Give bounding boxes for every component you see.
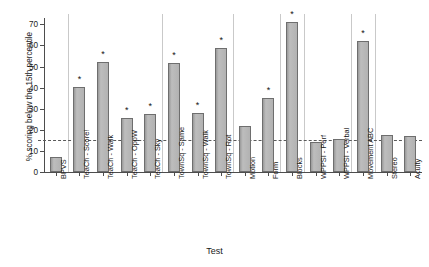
- x-tick-label: TeaCh - Walk: [106, 135, 115, 179]
- x-tick-mark: [221, 172, 222, 176]
- y-tick-mark: [40, 151, 44, 152]
- y-tick-label: 30: [29, 104, 38, 113]
- group-separator: [304, 14, 305, 172]
- significance-marker: *: [172, 51, 176, 60]
- x-tick-mark: [56, 172, 57, 176]
- group-separator: [351, 14, 352, 172]
- x-tick-label: Blocks: [295, 157, 304, 179]
- group-separator: [280, 14, 281, 172]
- x-tick-mark: [292, 172, 293, 176]
- x-tick-label: Stereo: [390, 157, 399, 179]
- x-tick-label: Acuity: [413, 159, 422, 179]
- significance-marker: *: [101, 50, 105, 59]
- significance-marker: *: [125, 106, 129, 115]
- plot-area: 010203040506070 ********** BPVSTeaCh - S…: [44, 18, 422, 172]
- x-tick-label: TownSq - Walk: [201, 130, 210, 179]
- x-tick-label: TeaCh - OppW: [130, 130, 139, 179]
- significance-marker: *: [219, 36, 223, 45]
- y-tick-mark: [40, 172, 44, 173]
- significance-marker: *: [78, 75, 82, 84]
- group-separator: [68, 14, 69, 172]
- x-axis-title: Test: [0, 246, 429, 256]
- y-tick-label: 70: [29, 20, 38, 29]
- x-tick-label: WPPSI - Verbal: [342, 128, 351, 179]
- x-tick-label: BPVS: [59, 159, 68, 179]
- significance-marker: *: [196, 101, 200, 110]
- x-tick-mark: [410, 172, 411, 176]
- x-tick-label: TownSq - Rot: [224, 135, 233, 179]
- x-tick-label: Form: [271, 162, 280, 179]
- group-separator: [233, 14, 234, 172]
- x-tick-mark: [174, 172, 175, 176]
- significance-marker: *: [267, 86, 271, 95]
- x-tick-label: TownSq - Same: [177, 127, 186, 179]
- y-tick-mark: [40, 67, 44, 68]
- y-tick-label: 60: [29, 41, 38, 50]
- y-tick-mark: [40, 109, 44, 110]
- y-tick-label: 50: [29, 62, 38, 71]
- significance-marker: *: [149, 102, 153, 111]
- y-tick-mark: [40, 88, 44, 89]
- y-axis-title: % scoring below the 15th percentile: [25, 2, 34, 192]
- y-axis-line: [44, 18, 45, 172]
- y-tick-label: 40: [29, 83, 38, 92]
- bar[interactable]: [286, 22, 298, 172]
- x-tick-mark: [150, 172, 151, 176]
- x-tick-label: Motion: [248, 157, 257, 179]
- x-tick-mark: [245, 172, 246, 176]
- y-tick-mark: [40, 130, 44, 131]
- x-tick-mark: [268, 172, 269, 176]
- y-tick-mark: [40, 45, 44, 46]
- bar-chart: % scoring below the 15th percentile 0102…: [0, 0, 429, 267]
- group-separator: [162, 14, 163, 172]
- x-tick-label: TeaCh - Sky: [153, 139, 162, 179]
- x-tick-mark: [103, 172, 104, 176]
- y-tick-mark: [40, 24, 44, 25]
- x-tick-mark: [339, 172, 340, 176]
- x-tick-mark: [198, 172, 199, 176]
- x-tick-mark: [363, 172, 364, 176]
- significance-marker: *: [290, 10, 294, 19]
- x-tick-mark: [79, 172, 80, 176]
- significance-marker: *: [361, 29, 365, 38]
- y-tick-label: 0: [33, 168, 38, 177]
- x-tick-mark: [316, 172, 317, 176]
- x-tick-mark: [127, 172, 128, 176]
- x-tick-label: WPPSI - Perf: [319, 135, 328, 179]
- x-tick-label: Movement ABC: [366, 128, 375, 179]
- x-tick-mark: [387, 172, 388, 176]
- y-tick-label: 20: [29, 125, 38, 134]
- x-tick-label: TeaCh - Score!: [82, 130, 91, 179]
- y-tick-label: 10: [29, 146, 38, 155]
